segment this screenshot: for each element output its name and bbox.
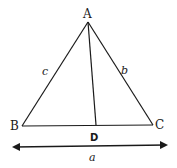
vertex-label-a: A — [82, 7, 92, 21]
point-label-d: D — [90, 132, 98, 143]
side-ab — [22, 22, 88, 126]
side-label-b: b — [121, 64, 128, 77]
side-label-c: c — [42, 65, 48, 78]
side-label-a: a — [89, 151, 96, 164]
triangle-diagram: A B C D c b a — [0, 0, 177, 168]
segment-ad — [88, 22, 96, 125]
vertex-label-b: B — [10, 119, 19, 133]
double-arrow-a — [14, 145, 166, 147]
vertex-label-c: C — [155, 118, 164, 132]
side-bc — [22, 125, 153, 126]
